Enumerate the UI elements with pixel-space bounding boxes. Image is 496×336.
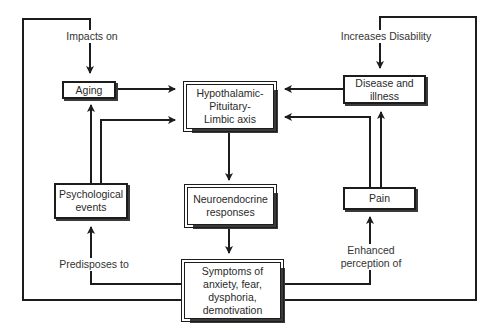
edge-psych-to-hpl (101, 120, 175, 183)
node-pain-label: Pain (369, 192, 390, 205)
node-symptoms: Symptoms of anxiety, fear, dysphoria, de… (184, 262, 281, 319)
label-enhanced-perception: Enhanced perception of (336, 244, 406, 270)
node-pain: Pain (343, 187, 416, 210)
edge-symptoms-to-psych (91, 227, 181, 284)
node-psychological-events: Psychological events (54, 183, 128, 219)
node-disease-illness: Disease and illness (343, 75, 426, 104)
node-aging: Aging (62, 81, 116, 99)
edge-pain-to-hpl (285, 117, 370, 187)
stress-feedback-diagram: Impacts on Increases Disability Predispo… (0, 0, 496, 336)
node-neuroendocrine-label: Neuroendocrine responses (193, 193, 268, 219)
node-neuroendocrine: Neuroendocrine responses (187, 187, 274, 225)
label-predisposes-to: Predisposes to (58, 258, 130, 271)
node-symptoms-label: Symptoms of anxiety, fear, dysphoria, de… (202, 265, 263, 317)
node-psychological-events-label: Psychological events (59, 188, 123, 214)
node-hpl-axis-label: Hypothalamic- Pituitary- Limbic axis (196, 87, 263, 126)
label-impacts-on: Impacts on (66, 30, 118, 43)
node-aging-label: Aging (76, 84, 103, 97)
node-disease-illness-label: Disease and illness (355, 77, 413, 103)
node-hpl-axis: Hypothalamic- Pituitary- Limbic axis (186, 84, 274, 129)
label-increases-disability: Increases Disability (338, 30, 434, 43)
